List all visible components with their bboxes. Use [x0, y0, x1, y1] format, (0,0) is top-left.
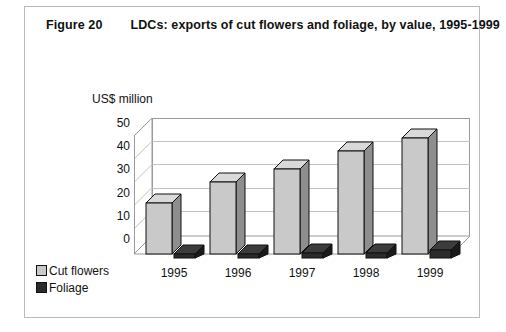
y-tick-20: 20	[106, 186, 130, 200]
y-tick-0: 0	[106, 232, 130, 246]
bar-foliage-1995[interactable]	[174, 257, 196, 261]
chart-bars	[134, 118, 470, 263]
legend-swatch-icon-cut-flowers	[36, 265, 47, 276]
figure-title-row: Figure 20 LDCs: exports of cut flowers a…	[46, 18, 466, 38]
bar-group-1997	[268, 118, 330, 263]
chart-plot-area: 50 40 30 20 10 0	[100, 118, 470, 263]
legend-item-cut-flowers[interactable]: Cut flowers	[36, 262, 166, 279]
legend-label-foliage: Foliage	[49, 281, 88, 295]
figure-number: Figure 20	[46, 18, 102, 32]
bar-foliage-1998[interactable]	[366, 256, 388, 261]
y-tick-30: 30	[106, 162, 130, 176]
bar-group-1995	[140, 118, 202, 263]
x-label-1999: 1999	[417, 266, 444, 280]
bar-cut-flowers-1996[interactable]	[210, 186, 236, 254]
bar-foliage-1996[interactable]	[238, 257, 260, 261]
x-label-1998: 1998	[353, 266, 380, 280]
bar-group-1996	[204, 118, 266, 263]
legend-swatch-icon-foliage	[36, 282, 47, 293]
page-title: LDCs: exports of cut flowers and foliage…	[130, 18, 499, 32]
bar-cut-flowers-1997[interactable]	[274, 173, 300, 254]
bar-foliage-1999[interactable]	[430, 253, 452, 261]
x-label-1996: 1996	[225, 266, 252, 280]
bar-cut-flowers-1998[interactable]	[338, 155, 364, 255]
bar-group-1998	[332, 118, 394, 263]
y-tick-10: 10	[106, 209, 130, 223]
y-axis-unit-label: US$ million	[92, 92, 153, 106]
legend-label-cut-flowers: Cut flowers	[49, 264, 109, 278]
chart-3d-box	[134, 118, 470, 263]
chart-legend: Cut flowers Foliage	[36, 262, 166, 296]
y-tick-50: 50	[106, 116, 130, 130]
y-tick-40: 40	[106, 139, 130, 153]
bar-foliage-1997[interactable]	[302, 256, 324, 261]
bar-cut-flowers-1995[interactable]	[146, 207, 172, 254]
bar-cut-flowers-1999[interactable]	[402, 141, 428, 254]
y-axis-ticks: 50 40 30 20 10 0	[100, 118, 130, 254]
legend-item-foliage[interactable]: Foliage	[36, 279, 166, 296]
bar-group-1999	[396, 118, 458, 263]
figure-page: Figure 20 LDCs: exports of cut flowers a…	[0, 0, 506, 332]
x-label-1997: 1997	[289, 266, 316, 280]
